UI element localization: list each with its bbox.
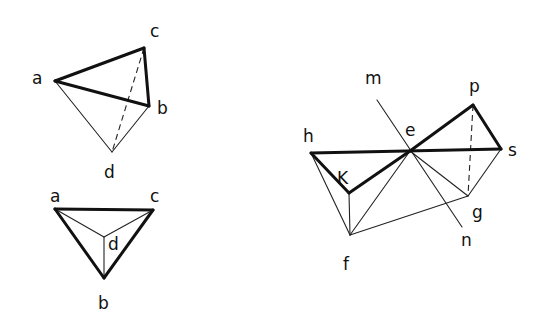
edge-d-b xyxy=(112,106,149,152)
vertex-label-c: c xyxy=(150,21,159,41)
geometry-diagram: acbd acdb mphesKgnf xyxy=(0,0,542,327)
edge-e-p xyxy=(410,105,473,151)
double-tetrahedron-right: mphesKgnf xyxy=(303,68,517,274)
vertex-label-h: h xyxy=(303,126,314,146)
vertex-label-n: n xyxy=(461,230,472,250)
edge-a-c xyxy=(55,209,153,210)
vertex-label-a: a xyxy=(50,186,60,206)
vertex-label-a: a xyxy=(32,68,42,88)
vertex-label-b: b xyxy=(157,98,168,118)
edge-f-g xyxy=(350,196,468,235)
edge-h-f xyxy=(311,153,350,235)
vertex-label-b: b xyxy=(98,293,109,313)
edge-p-s xyxy=(473,105,501,149)
vertex-label-c: c xyxy=(150,186,159,206)
vertex-label-m: m xyxy=(365,68,382,88)
vertex-label-g: g xyxy=(472,202,483,222)
edge-f-e xyxy=(350,151,410,235)
vertex-label-k: K xyxy=(337,168,349,188)
edge-a-b xyxy=(55,81,149,106)
vertex-label-d: d xyxy=(104,162,115,182)
vertex-label-d: d xyxy=(108,234,119,254)
edge-K-e xyxy=(349,151,410,193)
vertex-label-s: s xyxy=(508,140,517,160)
edge-c-b xyxy=(144,48,149,106)
vertex-label-f: f xyxy=(343,254,350,274)
edge-a-d xyxy=(55,209,104,237)
vertex-label-e: e xyxy=(405,120,415,140)
edge-c-d xyxy=(104,210,153,237)
vertex-label-p: p xyxy=(469,76,480,96)
tetrahedron-top-left: acbd xyxy=(32,21,168,182)
tetrahedron-bottom-left: acdb xyxy=(50,186,159,313)
edge-a-d xyxy=(55,81,112,152)
edge-K-f xyxy=(349,193,350,235)
edge-g-s xyxy=(468,149,501,196)
edge-a-c xyxy=(55,48,144,81)
edge-e-g xyxy=(410,151,468,196)
edge-a-b xyxy=(55,209,104,278)
